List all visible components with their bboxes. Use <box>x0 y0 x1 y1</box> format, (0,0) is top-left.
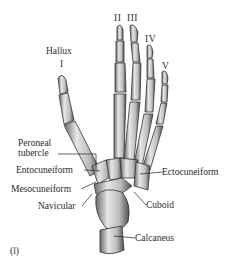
entocuneiform-label: Entocuneiform <box>16 165 73 175</box>
cuboid-label: Cuboid <box>146 200 174 210</box>
digit-II-bones <box>114 25 126 158</box>
digit-I-bones <box>58 75 100 176</box>
mesocuneiform-label: Mesocuneiform <box>11 184 71 194</box>
digit-label-III: III <box>127 13 138 23</box>
panel-label: (l) <box>10 246 19 256</box>
calcaneus-label: Calcaneus <box>135 233 174 243</box>
peroneal-tubercle-label-line1: Peroneal <box>18 138 51 148</box>
foot-skeleton-illustration <box>0 0 232 272</box>
digit-label-II: II <box>114 13 121 23</box>
digit-label-I: I <box>60 59 64 69</box>
digit-label-V: V <box>162 61 169 71</box>
navicular-label: Navicular <box>38 201 75 211</box>
ectocuneiform-label: Ectocuneiform <box>162 167 218 177</box>
hallux-label: Hallux <box>46 46 72 56</box>
peroneal-tubercle-label-line2: tubercle <box>18 148 49 158</box>
digit-label-IV: IV <box>145 34 156 44</box>
